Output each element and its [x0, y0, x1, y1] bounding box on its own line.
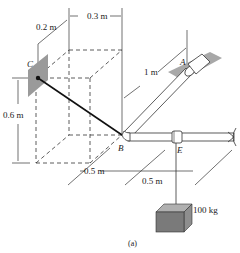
- dim-0-3-label: 0.3 m: [87, 12, 108, 21]
- point-c-label: C: [27, 60, 33, 69]
- collar-e: [172, 131, 182, 143]
- mass-block: [156, 204, 192, 232]
- statics-diagram: 0.3 m 0.2 m 1 m 0.6 m 0.5 m 0.5 m C A B …: [0, 0, 240, 253]
- cable-cb: [38, 78, 122, 135]
- diagram-drawing: [0, 0, 240, 253]
- pipe-ab: [124, 68, 192, 138]
- dim-0-6-label: 0.6 m: [3, 111, 24, 120]
- figure-caption: (a): [128, 240, 137, 248]
- point-b-label: B: [118, 144, 124, 153]
- dim-0-5-right-label: 0.5 m: [142, 177, 163, 186]
- point-a-label: A: [180, 58, 186, 67]
- point-e-label: E: [177, 146, 183, 155]
- dimension-lines: [12, 8, 232, 185]
- dim-0-5-left-label: 0.5 m: [84, 167, 105, 176]
- dim-1-label: 1 m: [144, 68, 158, 77]
- mass-label: 100 kg: [193, 206, 218, 215]
- dim-0-2-label: 0.2 m: [36, 23, 57, 32]
